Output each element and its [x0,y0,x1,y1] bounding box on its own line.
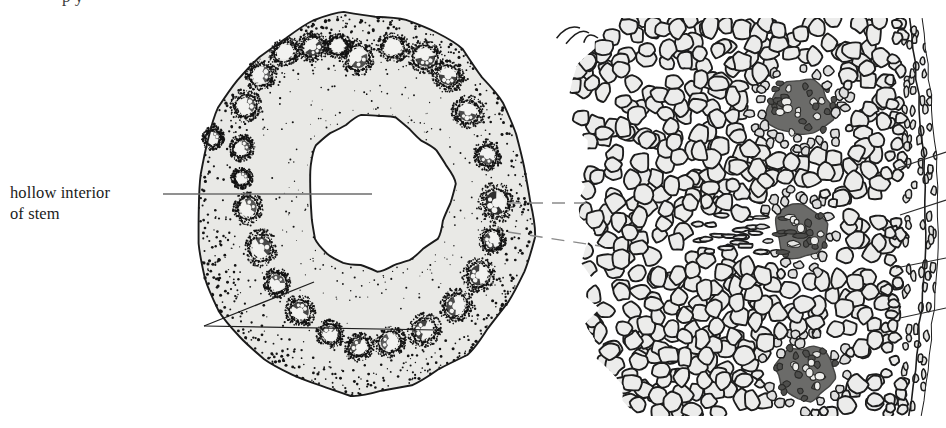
stem-cross-section [197,12,536,397]
cropped-top-text: p y [0,0,946,9]
illustration-canvas: hollow interior of stem p y [0,0,946,428]
label-hollow-interior-line1: hollow interior [10,182,110,203]
label-hollow-interior: hollow interior of stem [10,182,110,224]
cropped-top-text-fragment: p y [62,0,83,7]
magnified-tissue-detail [557,10,939,421]
label-hollow-interior-line2: of stem [10,203,110,224]
botanical-figure [0,0,946,428]
